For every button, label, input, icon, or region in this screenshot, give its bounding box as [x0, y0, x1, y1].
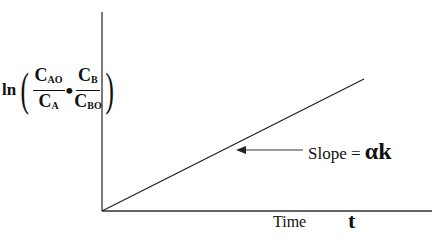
ln-symbol: ln: [2, 80, 16, 100]
left-paren: (: [21, 67, 29, 113]
fraction-2: CB CBO: [74, 65, 101, 116]
slope-annotation: Slope = αk: [308, 138, 392, 165]
y-axis-label: ln ( CAO CA • CB CBO ): [2, 62, 117, 118]
multiply-dot: •: [66, 78, 74, 104]
plot-area: [0, 0, 441, 242]
slope-symbol: αk: [365, 138, 392, 164]
x-axis-symbol: t: [348, 208, 355, 234]
right-paren: ): [105, 67, 113, 113]
fraction-1: CAO CA: [33, 65, 65, 116]
x-axis-label: Time: [273, 213, 306, 231]
arrowhead-icon: [236, 146, 246, 154]
